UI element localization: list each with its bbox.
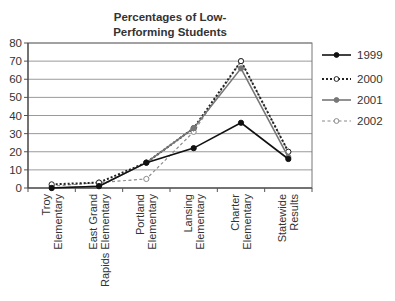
- legend-marker: [334, 53, 339, 58]
- x-tick-label: PortlandElementary: [134, 194, 158, 250]
- series-2002: [49, 59, 291, 189]
- y-tick-label: 60: [9, 73, 22, 85]
- x-tick-label: East GrandRapids Elementary: [87, 194, 111, 287]
- legend-label: 2002: [357, 115, 383, 127]
- legend: 1999200020012002: [322, 49, 383, 127]
- x-tick-label-line: Statewide: [276, 194, 288, 242]
- series-1999: [49, 120, 291, 190]
- y-tick-label: 80: [9, 37, 22, 49]
- y-tick-label: 10: [9, 164, 22, 176]
- x-tick-label-line: East Grand: [87, 194, 99, 250]
- x-axis: TroyElementaryEast GrandRapids Elementar…: [28, 188, 312, 287]
- legend-label: 1999: [357, 49, 383, 61]
- x-tick-label-line: Elementary: [194, 194, 206, 250]
- y-tick-label: 70: [9, 55, 22, 67]
- data-point: [144, 160, 149, 165]
- x-tick-label-line: Results: [288, 194, 300, 231]
- data-series: [49, 59, 291, 191]
- data-point: [144, 176, 149, 181]
- x-tick-label-line: Elementary: [146, 194, 158, 250]
- x-tick-label-line: Rapids Elementary: [99, 194, 111, 287]
- data-point: [286, 156, 291, 161]
- y-tick-label: 50: [9, 91, 22, 103]
- data-point: [238, 120, 243, 125]
- series-2000: [49, 59, 291, 187]
- legend-item-2001: 2001: [322, 94, 383, 106]
- data-point: [191, 126, 196, 131]
- y-axis: 01020304050607080: [9, 37, 28, 194]
- legend-marker: [334, 77, 339, 82]
- x-tick-label-line: Portland: [134, 194, 146, 235]
- x-tick-label: LansingElementary: [182, 194, 206, 250]
- x-tick-label-line: Charter: [229, 194, 241, 231]
- line-chart: 01020304050607080 TroyElementaryEast Gra…: [0, 0, 395, 301]
- series-line-1999: [52, 123, 289, 188]
- x-tick-label-line: Troy: [40, 194, 52, 216]
- legend-label: 2000: [357, 73, 383, 85]
- y-tick-label: 20: [9, 146, 22, 158]
- legend-item-1999: 1999: [322, 49, 383, 61]
- legend-item-2000: 2000: [322, 73, 383, 85]
- y-tick-label: 0: [16, 182, 22, 194]
- series-2001: [49, 66, 291, 191]
- y-tick-label: 40: [9, 110, 22, 122]
- y-tick-label: 30: [9, 128, 22, 140]
- legend-item-2002: 2002: [322, 115, 383, 127]
- legend-marker: [334, 119, 339, 124]
- data-point: [238, 59, 243, 64]
- x-tick-label-line: Elementary: [52, 194, 64, 250]
- legend-label: 2001: [357, 94, 383, 106]
- x-tick-label: TroyElementary: [40, 194, 64, 250]
- legend-marker: [334, 98, 339, 103]
- data-point: [49, 185, 54, 190]
- data-point: [191, 146, 196, 151]
- x-tick-label-line: Lansing: [182, 194, 194, 233]
- x-tick-label: StatewideResults: [276, 194, 300, 243]
- x-tick-label: CharterElementary: [229, 194, 253, 250]
- data-point: [96, 184, 101, 189]
- data-point: [238, 66, 243, 71]
- series-line-2002: [52, 61, 289, 186]
- x-tick-label-line: Elementary: [241, 194, 253, 250]
